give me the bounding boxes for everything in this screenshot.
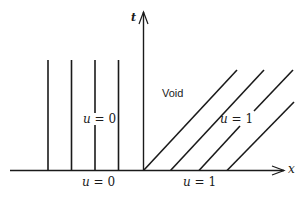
x-axis-label: x <box>288 163 295 175</box>
characteristics-diagram <box>0 0 301 198</box>
slanted-characteristic-3b <box>254 70 293 111</box>
right-region-var: u <box>220 112 228 126</box>
slanted-characteristics <box>144 70 295 171</box>
left-region-val: 0 <box>108 112 116 126</box>
right-initial-var: u <box>183 175 191 189</box>
right-region-val: 1 <box>245 112 253 126</box>
x-axis-label-text: x <box>288 162 295 176</box>
left-region-label: u = 0 <box>82 113 117 125</box>
left-initial-label: u = 0 <box>82 176 115 188</box>
void-label-text: Void <box>162 87 183 99</box>
right-initial-eq: = <box>191 175 209 189</box>
void-label: Void <box>162 88 183 99</box>
right-region-eq: = <box>228 112 246 126</box>
left-region-var: u <box>83 112 91 126</box>
right-region-label: u = 1 <box>220 113 253 125</box>
left-initial-eq: = <box>90 175 108 189</box>
right-initial-val: 1 <box>208 175 216 189</box>
t-axis-label: t <box>131 12 136 23</box>
right-initial-label: u = 1 <box>183 176 216 188</box>
t-axis-label-text: t <box>131 11 136 24</box>
left-region-eq: = <box>91 112 109 126</box>
left-initial-var: u <box>82 175 90 189</box>
left-initial-val: 0 <box>107 175 115 189</box>
